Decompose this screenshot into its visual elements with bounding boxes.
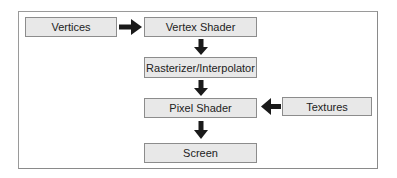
arrows-layer — [0, 0, 397, 178]
arrow-down-icon — [194, 39, 208, 55]
arrow-left-icon — [261, 98, 281, 115]
arrow-down-icon — [194, 80, 208, 96]
arrow-right-icon — [119, 19, 142, 35]
arrow-down-icon — [194, 121, 208, 139]
